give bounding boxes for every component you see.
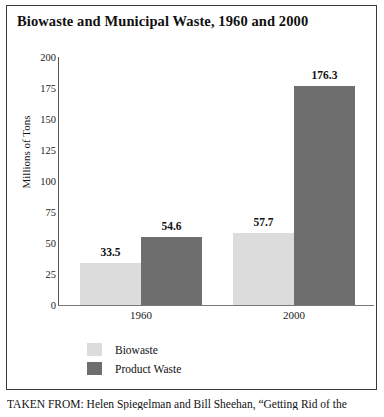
source-caption: TAKEN FROM: Helen Spiegelman and Bill Sh… <box>7 398 379 410</box>
bar-biowaste-1960 <box>80 263 141 305</box>
x-axis-category-label: 1960 <box>130 309 152 321</box>
bar-value-label: 176.3 <box>312 69 338 81</box>
legend-label: Product Waste <box>115 363 181 375</box>
bars-layer: 33.554.6196057.7176.32000 <box>7 6 376 389</box>
legend-item: Biowaste <box>87 340 181 359</box>
chart-figure-frame: Biowaste and Municipal Waste, 1960 and 2… <box>6 5 377 390</box>
legend-label: Biowaste <box>115 344 158 356</box>
bar-product-waste-1960 <box>141 237 202 305</box>
bar-value-label: 54.6 <box>161 220 181 232</box>
x-axis-category-label: 2000 <box>283 309 305 321</box>
legend-swatch <box>87 343 102 356</box>
legend-item: Product Waste <box>87 359 181 378</box>
bar-product-waste-2000 <box>294 86 355 305</box>
chart-legend: BiowasteProduct Waste <box>87 340 181 378</box>
bar-value-label: 57.7 <box>253 216 273 228</box>
bar-value-label: 33.5 <box>100 246 120 258</box>
plot-area: Millions of Tons 2001751501251007550250 … <box>7 6 376 389</box>
legend-swatch <box>87 362 102 375</box>
bar-biowaste-2000 <box>233 233 294 305</box>
